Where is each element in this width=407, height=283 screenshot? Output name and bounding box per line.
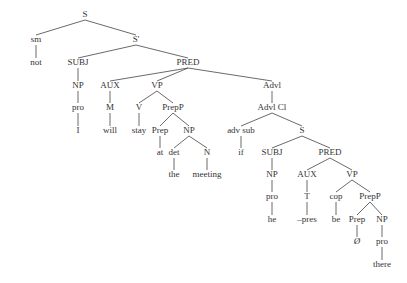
node-adv-sub: adv sub [227,125,255,135]
leaf-stay: stay [132,125,147,135]
node-S: S [299,125,304,135]
node-AUX: AUX [297,169,317,179]
leaf-be: be [332,214,341,224]
node-PRED: PRED [318,147,342,157]
leaf-not: not [30,57,42,67]
leaf-pres: –pres [296,214,317,224]
node-NP: NP [183,125,195,135]
tree-edges [36,20,382,260]
node-VP: VP [151,80,163,90]
tree-labels: S sm not S' SUBJ NP pro I PRED AUX M wil… [30,9,391,269]
leaf-I: I [77,125,80,135]
leaf-if: if [238,147,244,157]
node-T: T [304,191,310,201]
node-N: N [204,147,211,157]
node-Prep: Prep [349,214,366,224]
node-NP: NP [266,169,278,179]
node-Advl-Cl: Advl Cl [258,102,287,112]
node-M: M [106,102,114,112]
syntax-tree: S sm not S' SUBJ NP pro I PRED AUX M wil… [0,0,407,283]
node-VP: VP [346,169,358,179]
node-pro: pro [266,191,278,201]
node-Advl: Advl [263,80,281,90]
node-Prep: Prep [152,125,169,135]
node-PrepP: PrepP [162,102,184,112]
node-PrepP: PrepP [359,191,381,201]
node-S-prime: S' [133,34,140,44]
node-pro: pro [72,102,84,112]
node-sm: sm [31,34,42,44]
node-SUBJ: SUBJ [261,147,283,157]
leaf-meeting: meeting [193,169,222,179]
leaf-at: at [157,147,164,157]
node-S: S [82,9,87,19]
node-V: V [136,102,143,112]
leaf-will: will [103,125,118,135]
node-cop: cop [330,191,343,201]
node-det: det [169,147,180,157]
node-NP: NP [376,214,388,224]
node-pro: pro [376,236,388,246]
leaf-the: the [169,169,180,179]
leaf-null: Ø [353,236,361,246]
node-AUX: AUX [100,80,120,90]
leaf-he: he [268,214,277,224]
node-PRED: PRED [176,57,200,67]
node-SUBJ: SUBJ [67,57,89,67]
leaf-there: there [373,259,391,269]
node-NP: NP [72,80,84,90]
